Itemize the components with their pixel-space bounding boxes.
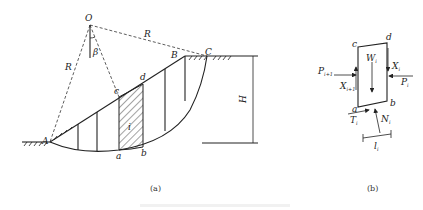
label-b-a: a xyxy=(352,104,357,114)
figure-a: O A B C c d a b R R β i H (a) xyxy=(22,13,258,193)
label-A: A xyxy=(41,136,49,146)
label-H: H xyxy=(238,95,248,104)
label-P-left: Pi+1 xyxy=(317,66,333,77)
panel-label-b: (b) xyxy=(367,184,378,193)
label-R-top: R xyxy=(143,29,151,39)
arrow-N xyxy=(375,109,380,133)
label-B: B xyxy=(170,50,178,60)
label-C: C xyxy=(205,47,212,57)
label-b: b xyxy=(141,148,147,158)
panel-label-a: (a) xyxy=(150,184,161,193)
label-N: Ni xyxy=(380,114,391,125)
figure-canvas: O A B C c d a b R R β i H (a) c d a xyxy=(0,0,423,210)
label-T: Ti xyxy=(350,115,358,126)
label-b-b: b xyxy=(390,98,396,108)
caption-faint xyxy=(140,204,290,207)
label-slice-i: i xyxy=(128,122,131,132)
label-c: c xyxy=(114,86,119,96)
slice-i-hatched xyxy=(119,84,143,150)
label-P-right: Pi xyxy=(400,77,409,88)
label-b-d: d xyxy=(386,32,392,42)
label-W: Wi xyxy=(366,53,377,64)
label-O: O xyxy=(85,13,93,23)
label-b-c: c xyxy=(352,39,357,49)
label-R-left: R xyxy=(64,62,72,72)
label-d: d xyxy=(140,72,146,82)
figure-b: c d a b Wi Pi+1 Xi+1 Xi Pi Ti Ni li (b) xyxy=(317,32,413,193)
label-l: li xyxy=(374,141,379,152)
angle-beta-arc xyxy=(90,37,95,38)
width-dimension xyxy=(363,134,391,138)
label-X-left: Xi+1 xyxy=(339,81,355,92)
label-beta: β xyxy=(92,47,98,57)
radius-OA xyxy=(50,25,90,142)
label-X-right: Xi xyxy=(391,61,400,72)
label-a: a xyxy=(116,151,121,161)
